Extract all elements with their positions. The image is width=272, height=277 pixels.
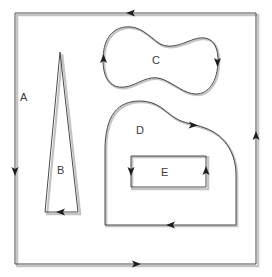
region-b: B	[45, 52, 80, 216]
region-b-label: B	[57, 164, 64, 176]
region-c-label: C	[152, 54, 160, 66]
region-a-label: A	[20, 91, 28, 103]
region-e-label: E	[161, 166, 168, 178]
region-e: E	[128, 156, 210, 189]
region-d: D	[105, 101, 237, 229]
region-d-label: D	[136, 124, 144, 136]
oriented-regions-diagram: A B C D E	[0, 0, 272, 277]
region-c: C	[100, 27, 221, 95]
